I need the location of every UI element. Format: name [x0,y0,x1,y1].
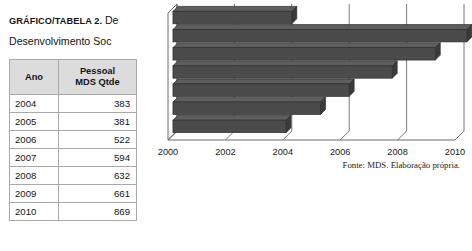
table-row: 2008632 [10,167,137,185]
table-row: 2005381 [10,113,137,131]
chart-bar-top-face [173,43,440,48]
table-cell-qtde: 869 [59,203,137,221]
chart-canvas [152,0,472,175]
table-cell-qtde: 522 [59,131,137,149]
table-cell-qtde: 632 [59,167,137,185]
table-cell-qtde: 594 [59,149,137,167]
chart-bar-top-face [173,61,397,66]
chart-bar-top-face [173,115,291,120]
figure-caption-label: GRÁFICO/TABELA 2. [9,16,102,26]
left-column: GRÁFICO/TABELA 2. De Desenvolvimento Soc… [0,0,152,251]
table-row: 2009661 [10,185,137,203]
table-header-pessoal-line1: Pessoal [59,66,136,77]
bar-chart: 9,440,629,027,120,312,511,8 200020022004… [152,0,472,251]
table-cell-ano: 2008 [10,167,59,185]
table-cell-ano: 2010 [10,203,59,221]
chart-bar [173,48,435,60]
chart-bar-top-face [173,97,326,102]
table-cell-ano: 2007 [10,149,59,167]
chart-bar-top-face [173,79,354,84]
table-header-ano: Ano [10,60,59,95]
table-cell-qtde: 383 [59,95,137,113]
chart-x-tick-label: 2010 [437,147,472,157]
chart-bar [173,120,286,132]
figure-caption-line2: Desenvolvimento Soc [9,32,139,51]
table-header-row: Ano Pessoal MDS Qtde [10,60,137,95]
table-header-pessoal-line2: MDS Qtde [59,77,136,88]
chart-bar [173,66,392,78]
figure-caption-text: De [102,14,118,26]
table-cell-qtde: 381 [59,113,137,131]
table-header-pessoal: Pessoal MDS Qtde [59,60,137,95]
chart-bar-top-face [173,6,297,11]
table-cell-ano: 2009 [10,185,59,203]
chart-x-tick-label: 2002 [207,147,243,157]
table-cell-ano: 2004 [10,95,59,113]
chart-x-tick-label: 2008 [380,147,416,157]
data-table: Ano Pessoal MDS Qtde 2004383200538120065… [9,59,137,221]
table-header: Ano Pessoal MDS Qtde [10,60,137,95]
table-row: 2004383 [10,95,137,113]
chart-bar [173,11,292,23]
chart-x-tick-label: 2004 [265,147,301,157]
table-body: 2004383200538120065222007594200863220096… [10,95,137,221]
chart-x-tick-label: 2000 [150,147,186,157]
table-row: 2006522 [10,131,137,149]
figure-root: GRÁFICO/TABELA 2. De Desenvolvimento Soc… [0,0,472,251]
figure-caption-line1: GRÁFICO/TABELA 2. De [9,11,155,31]
chart-bar-top-face [173,25,472,30]
chart-x-tick-label: 2006 [322,147,358,157]
table-row: 2007594 [10,149,137,167]
table-cell-qtde: 661 [59,185,137,203]
chart-bar [173,102,321,114]
chart-bar [173,30,467,42]
table-cell-ano: 2006 [10,131,59,149]
source-note: Fonte: MDS. Elaboração própria. [342,160,460,170]
table-row: 2010869 [10,203,137,221]
table-cell-ano: 2005 [10,113,59,131]
chart-bar [173,84,349,96]
